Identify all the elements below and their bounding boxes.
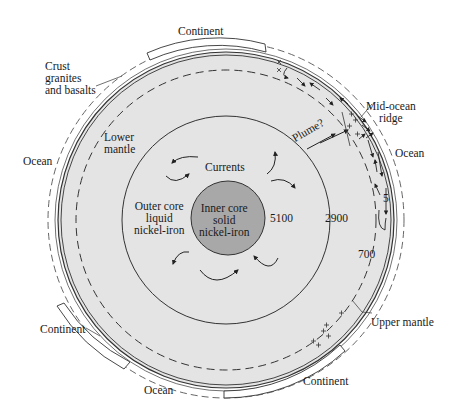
upper-mantle-label: Upper mantle <box>371 316 434 328</box>
depth-700-label: 700 <box>358 248 375 260</box>
outer-core-label: Outer core liquid nickel-iron <box>134 200 184 236</box>
crust-leader <box>96 76 122 86</box>
lower-mantle-line2: mantle <box>104 143 135 155</box>
inner-core-line3: nickel-iron <box>199 226 249 238</box>
inner-core-line1: Inner core <box>199 202 249 214</box>
mid-ocean-ridge-label: Mid-ocean ridge <box>366 100 416 124</box>
crust-label-line1: Crust <box>45 60 96 72</box>
outer-core-line1: Outer core <box>134 200 184 212</box>
depth-2900-label: 2900 <box>325 212 348 224</box>
ocean-bottom-label: Ocean <box>144 384 173 396</box>
currents-label: Currents <box>205 161 245 173</box>
outer-core-line2: liquid <box>134 212 184 224</box>
continent-left-label: Continent <box>40 323 85 335</box>
continent-bottom-label: Continent <box>303 375 348 387</box>
crust-thickness-5-label: 5 <box>383 192 389 204</box>
depth-5100-label: 5100 <box>270 212 293 224</box>
crust-label-line2: granites <box>45 72 96 84</box>
outer-core-line3: nickel-iron <box>134 224 184 236</box>
ridge-label-line2: ridge <box>366 112 416 124</box>
inner-core-line2: solid <box>199 214 249 226</box>
ridge-label-line1: Mid-ocean <box>366 100 416 112</box>
crust-label: Crust granites and basalts <box>45 60 96 96</box>
ocean-right-label: Ocean <box>395 147 424 159</box>
inner-core-label: Inner core solid nickel-iron <box>199 202 249 238</box>
ocean-left-label: Ocean <box>23 155 52 167</box>
lower-mantle-line1: Lower <box>104 131 135 143</box>
crust-label-line3: and basalts <box>45 84 96 96</box>
continent-top-label: Continent <box>178 25 223 37</box>
lower-mantle-label: Lower mantle <box>104 131 135 155</box>
